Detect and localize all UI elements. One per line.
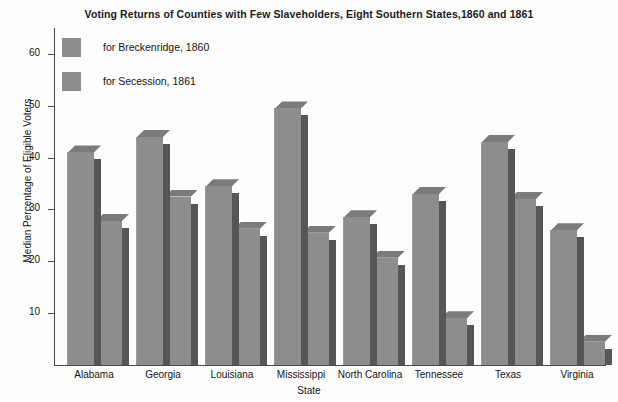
bar-top-face — [275, 101, 308, 108]
bar — [412, 194, 439, 365]
chart-title: Voting Returns of Counties with Few Slav… — [0, 8, 618, 20]
bar-group — [136, 28, 198, 365]
bar-group — [550, 28, 612, 365]
bar-side-face — [94, 159, 101, 365]
bar — [205, 186, 232, 365]
x-axis-line — [54, 365, 606, 366]
bar-side-face — [398, 265, 405, 365]
bar-top-face — [482, 135, 515, 142]
x-axis-title: State — [0, 385, 618, 396]
bar-top-face — [413, 187, 446, 194]
bar-group — [481, 28, 543, 365]
y-axis-title: Median Percentage of Eligible Voters — [22, 66, 33, 296]
bar-top-face — [344, 210, 377, 217]
bar-group — [274, 28, 336, 365]
bar — [67, 152, 94, 365]
bar-side-face — [605, 349, 612, 365]
bar-side-face — [301, 115, 308, 365]
bar-side-face — [577, 237, 584, 365]
bar — [550, 230, 577, 365]
bar — [481, 142, 508, 365]
y-tick-label: 10 — [14, 306, 40, 317]
bar — [343, 217, 370, 365]
bar-side-face — [536, 206, 543, 365]
bar-side-face — [467, 325, 474, 365]
bar-side-face — [163, 144, 170, 365]
bar-top-face — [137, 130, 170, 137]
bar-top-face — [551, 223, 584, 230]
bar-side-face — [439, 201, 446, 365]
bar-side-face — [232, 193, 239, 365]
bar-group — [343, 28, 405, 365]
bar-group — [205, 28, 267, 365]
bar — [274, 108, 301, 365]
bar-top-face — [206, 179, 239, 186]
bar-side-face — [370, 224, 377, 365]
bar-side-face — [508, 149, 515, 365]
bar-side-face — [260, 236, 267, 365]
bar-group — [67, 28, 129, 365]
bar-top-face — [68, 145, 101, 152]
bar-group — [412, 28, 474, 365]
bar — [136, 137, 163, 365]
x-tick-label: Virginia — [532, 369, 618, 380]
plot-area — [54, 28, 606, 365]
y-tick-label: 60 — [14, 47, 40, 58]
bar-side-face — [122, 228, 129, 365]
bar-side-face — [329, 240, 336, 365]
bar-side-face — [191, 204, 198, 366]
bar-chart: Voting Returns of Counties with Few Slav… — [0, 0, 618, 402]
